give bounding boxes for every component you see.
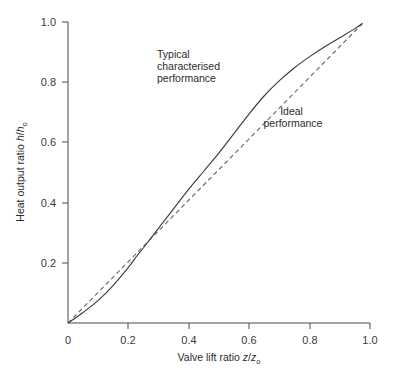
y-tick-label-1.0: 1.0 xyxy=(41,16,56,28)
y-tick-label-0.6: 0.6 xyxy=(41,136,56,148)
x-tick-label-0.8: 0.8 xyxy=(302,334,317,346)
y-tick-label-0.2: 0.2 xyxy=(41,257,56,269)
x-axis-title: Valve lift ratio z/zo xyxy=(178,351,261,366)
annotation-ideal-performance: Ideal performance xyxy=(264,105,323,129)
chart-figure: 1.0 0.8 0.6 0.4 0.2 0 0.2 0.4 0.6 0.8 1.… xyxy=(0,0,398,377)
x-tick-label-0.2: 0.2 xyxy=(120,334,135,346)
y-tick-label-0.8: 0.8 xyxy=(41,76,56,88)
y-axis-title: Heat output ratio h/ho xyxy=(14,122,29,221)
x-tick-label-0: 0 xyxy=(65,334,71,346)
chart-plot-area: 1.0 0.8 0.6 0.4 0.2 0 0.2 0.4 0.6 0.8 1.… xyxy=(0,0,398,377)
annotation-typical-characterised-performance: Typical characterised performance xyxy=(157,48,223,84)
x-tick-label-1.0: 1.0 xyxy=(362,334,377,346)
x-tick-label-0.6: 0.6 xyxy=(241,334,256,346)
x-tick-label-0.4: 0.4 xyxy=(181,334,196,346)
y-tick-label-0.4: 0.4 xyxy=(41,197,56,209)
